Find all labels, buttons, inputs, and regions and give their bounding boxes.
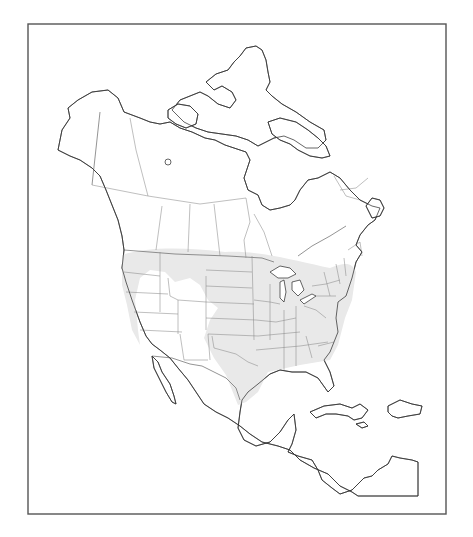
north-america-map (0, 0, 473, 537)
cuba (310, 404, 368, 420)
hispaniola (388, 400, 422, 418)
baja-california (152, 356, 176, 404)
great-bear-lake (165, 159, 171, 165)
